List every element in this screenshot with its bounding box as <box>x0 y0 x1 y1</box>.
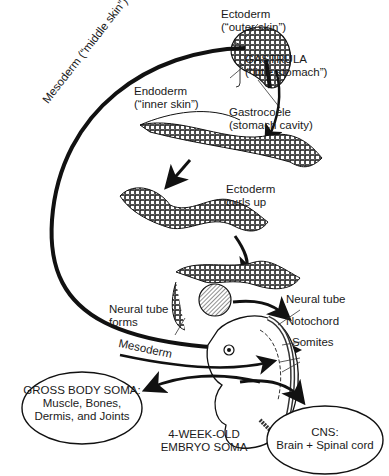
embryo-label-line: 4-WEEK-OLD <box>160 428 248 441</box>
ectoderm-curls-sub: curls up <box>226 196 275 209</box>
gastrocoele-sub: (stomach cavity) <box>229 119 313 132</box>
endoderm-label: Endoderm (“inner skin”) <box>134 85 199 111</box>
ectoderm-label: Ectoderm (“outer skin”) <box>221 8 286 34</box>
gross-body-line: Muscle, Bones, <box>22 397 142 410</box>
gastrula-title: GASTRULA <box>245 53 327 66</box>
gastrula-sub: (“little stomach”) <box>245 66 327 79</box>
cns-text: CNS: Brain + Spinal cord <box>267 426 383 452</box>
ectoderm-label-line: Ectoderm <box>221 8 286 21</box>
gastrocoele-label: Gastrocoele (stomach cavity) <box>229 106 313 132</box>
ectoderm-label-sub: (“outer skin”) <box>221 21 286 34</box>
somites-label: Somites <box>292 336 334 349</box>
neural-tube-label: Neural tube <box>286 293 345 306</box>
gross-body-text: GROSS BODY SOMA: Muscle, Bones, Dermis, … <box>22 384 142 423</box>
endoderm-sub: (“inner skin”) <box>134 98 199 111</box>
gastrocoele-title: Gastrocoele <box>229 106 313 119</box>
embryo-label: 4-WEEK-OLD EMBRYO SOMA <box>160 428 248 454</box>
endoderm-title: Endoderm <box>134 85 199 98</box>
neural-tube-forms-sub: forms <box>109 316 168 329</box>
ectoderm-curls-title: Ectoderm <box>226 183 275 196</box>
ectoderm-curls-label: Ectoderm curls up <box>226 183 275 209</box>
embryo-label-line: EMBRYO SOMA <box>160 441 248 454</box>
cns-title: CNS: <box>267 426 383 439</box>
gross-body-title: GROSS BODY SOMA: <box>22 384 142 397</box>
gastrula-label: GASTRULA (“little stomach”) <box>245 53 327 79</box>
neural-tube-forms-title: Neural tube <box>109 303 168 316</box>
neural-tube-forms-label: Neural tube forms <box>109 303 168 329</box>
gross-body-line: Dermis, and Joints <box>22 410 142 423</box>
cns-line: Brain + Spinal cord <box>267 439 383 452</box>
notochord-label: Notochord <box>286 315 339 328</box>
